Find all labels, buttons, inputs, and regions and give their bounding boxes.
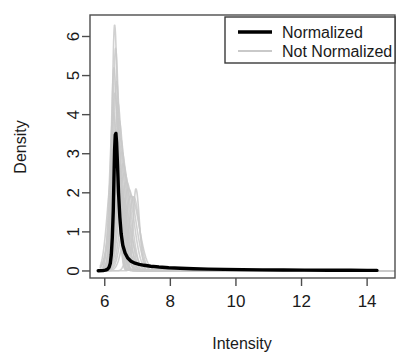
x-axis-title: Intensity bbox=[212, 335, 272, 352]
y-tick-label: 2 bbox=[65, 188, 84, 197]
x-tick-label: 8 bbox=[166, 292, 175, 311]
y-tick-label: 1 bbox=[65, 227, 84, 236]
x-tick-label: 14 bbox=[358, 292, 377, 311]
y-tick-label: 4 bbox=[65, 110, 84, 119]
y-tick-label: 6 bbox=[65, 32, 84, 41]
y-tick-label: 3 bbox=[65, 149, 84, 158]
x-tick-label: 10 bbox=[226, 292, 245, 311]
x-tick-label: 12 bbox=[292, 292, 311, 311]
x-tick-label: 6 bbox=[100, 292, 109, 311]
density-plot-figure: 68101214 0123456 Intensity Density Norma… bbox=[0, 0, 416, 364]
y-tick-label: 5 bbox=[65, 71, 84, 80]
chart-canvas: 68101214 0123456 Intensity Density Norma… bbox=[0, 0, 416, 364]
legend-label-not-normalized: Not Normalized bbox=[282, 43, 392, 60]
y-tick-label: 0 bbox=[65, 266, 84, 275]
legend-label-normalized: Normalized bbox=[282, 24, 363, 41]
y-axis-title: Density bbox=[12, 120, 29, 173]
chart-legend: Normalized Not Normalized bbox=[225, 17, 395, 63]
